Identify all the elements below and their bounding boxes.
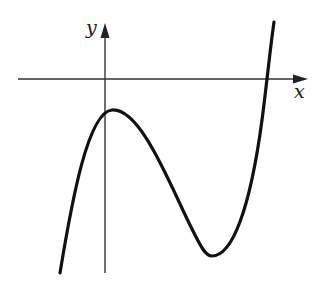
graph-canvas: [0, 0, 322, 291]
y-axis-label: y: [86, 18, 97, 37]
x-axis-label: x: [294, 82, 305, 101]
cubic-graph-figure: y x: [0, 0, 322, 291]
cubic-curve: [60, 22, 274, 273]
y-axis-arrow-icon: [101, 23, 110, 38]
